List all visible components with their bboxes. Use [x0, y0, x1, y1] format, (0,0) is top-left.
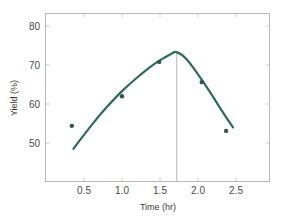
y-tick-label: 70: [29, 60, 41, 71]
y-tick-label: 80: [29, 21, 41, 32]
y-axis-label: Yield (%): [9, 80, 19, 116]
right-axis-ticks: [266, 26, 270, 143]
plot-frame: [46, 14, 270, 182]
x-tick-label: 1.0: [115, 185, 129, 196]
x-tick-label: 1.5: [153, 185, 167, 196]
yield-vs-time-chart: 50607080 0.51.01.52.02.5 Time (hr) Yield…: [0, 0, 299, 221]
x-tick-label: 2.5: [229, 185, 243, 196]
y-tick-label: 50: [29, 138, 41, 149]
data-point: [120, 94, 124, 98]
x-tick-label: 2.0: [191, 185, 205, 196]
x-axis-ticks: 0.51.01.52.02.5: [77, 178, 243, 197]
data-point: [224, 129, 228, 133]
y-axis-ticks: 50607080: [29, 21, 50, 149]
y-tick-label: 60: [29, 99, 41, 110]
data-point: [157, 60, 161, 64]
x-tick-label: 0.5: [77, 185, 91, 196]
top-axis-ticks: [84, 14, 236, 18]
fitted-curve: [73, 52, 233, 149]
x-axis-label: Time (hr): [140, 202, 176, 212]
data-point: [200, 80, 204, 84]
data-point: [70, 124, 74, 128]
